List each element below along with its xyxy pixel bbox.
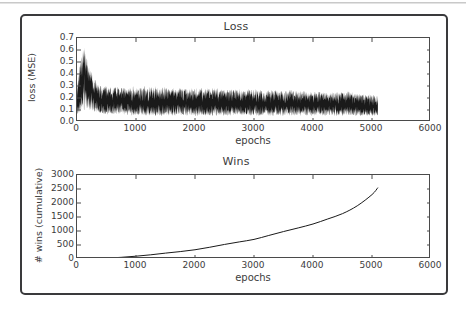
- wins-series-plot: [77, 175, 430, 258]
- wins-xtick-label: 3000: [242, 260, 265, 270]
- wins-ytick-label: 2500: [51, 183, 74, 193]
- page-scan-line-secondary: [0, 3, 466, 4]
- figure-frame: Loss 0.7 0.6 0.5 0.4 0.3 0.2 0.1 0.0 los…: [20, 14, 448, 295]
- loss-series-plot: [77, 38, 430, 121]
- wins-axes: [76, 174, 430, 258]
- loss-xtick-label: 6000: [419, 123, 442, 133]
- wins-chart-title: Wins: [22, 155, 450, 168]
- wins-yaxis-label: # wins (cumulative): [33, 168, 44, 264]
- wins-xtick-label: 1000: [124, 260, 147, 270]
- wins-panel: Wins 3000 2500 2000 1500 1000 500 0 # wi…: [22, 150, 450, 293]
- loss-xtick-label: 3000: [242, 123, 265, 133]
- wins-inner-ticks: [77, 175, 430, 258]
- loss-ytick-label: 0.3: [60, 80, 74, 90]
- loss-ytick-label: 0.2: [60, 92, 74, 102]
- loss-ytick-label: 0.6: [60, 44, 74, 54]
- loss-ytick-label: 0.7: [60, 32, 74, 42]
- loss-ytick-label: 0.4: [60, 68, 74, 78]
- loss-xtick-label: 5000: [360, 123, 383, 133]
- figure-page: Loss 0.7 0.6 0.5 0.4 0.3 0.2 0.1 0.0 los…: [0, 0, 466, 309]
- wins-ytick-label: 1000: [51, 225, 74, 235]
- loss-panel: Loss 0.7 0.6 0.5 0.4 0.3 0.2 0.1 0.0 los…: [22, 16, 450, 150]
- wins-xtick-label: 0: [73, 260, 79, 270]
- loss-ytick-label: 0.0: [60, 116, 74, 126]
- wins-line-series: [77, 188, 378, 258]
- wins-ytick-label: 1500: [51, 211, 74, 221]
- wins-ytick-label: 2000: [51, 197, 74, 207]
- wins-xtick-label: 6000: [419, 260, 442, 270]
- loss-xtick-label: 1000: [124, 123, 147, 133]
- wins-ytick-labels: 3000 2500 2000 1500 1000 500 0: [22, 150, 74, 293]
- wins-ytick-label: 500: [57, 239, 74, 249]
- loss-xtick-label: 4000: [301, 123, 324, 133]
- loss-ytick-label: 0.5: [60, 56, 74, 66]
- wins-xtick-label: 5000: [360, 260, 383, 270]
- wins-xtick-label: 4000: [301, 260, 324, 270]
- loss-axes: [76, 37, 430, 121]
- loss-ytick-label: 0.1: [60, 104, 74, 114]
- loss-xtick-label: 2000: [183, 123, 206, 133]
- wins-ytick-label: 3000: [51, 169, 74, 179]
- loss-xaxis-label: epochs: [76, 135, 430, 146]
- loss-yaxis-label: loss (MSE): [26, 48, 37, 108]
- loss-xtick-label: 0: [73, 123, 79, 133]
- loss-noise-series: [77, 47, 378, 116]
- wins-xaxis-label: epochs: [76, 272, 430, 283]
- wins-xtick-label: 2000: [183, 260, 206, 270]
- loss-chart-title: Loss: [22, 20, 450, 33]
- figure-inner: Loss 0.7 0.6 0.5 0.4 0.3 0.2 0.1 0.0 los…: [22, 16, 446, 293]
